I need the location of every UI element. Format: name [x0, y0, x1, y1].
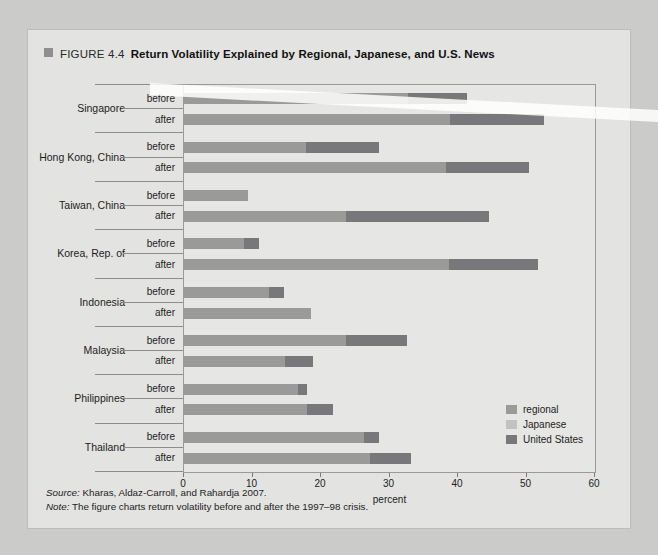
figure-number: FIGURE 4.4 [60, 48, 125, 60]
category-label: Thailand [85, 441, 125, 453]
bar-row [184, 211, 595, 222]
bar-row [184, 142, 595, 153]
figure-title: Return Volatility Explained by Regional,… [131, 48, 495, 60]
category-mid-rule [123, 447, 183, 448]
bar-segment-regional [184, 404, 307, 415]
bar-segment-united-states [408, 93, 467, 104]
group-separator-rule [95, 132, 183, 133]
group-separator-rule [95, 374, 183, 375]
group-separator-rule [95, 471, 183, 472]
period-label-after: after [155, 452, 175, 463]
legend-label: regional [523, 404, 559, 415]
period-label-before: before [147, 141, 175, 152]
period-label-before: before [147, 286, 175, 297]
bar-row [184, 190, 595, 201]
legend-swatch-icon [506, 420, 517, 429]
bar-segment-united-states [269, 287, 284, 298]
category-label: Malaysia [84, 344, 125, 356]
figure-notes: Source: Kharas, Aldaz-Carroll, and Rahar… [46, 486, 612, 513]
period-label-before: before [147, 383, 175, 394]
category-mid-rule [123, 205, 183, 206]
bar-segment-regional [184, 453, 370, 464]
bar-segment-regional [184, 432, 364, 443]
bar-segment-united-states [346, 335, 407, 346]
bar-row [184, 93, 595, 104]
period-label-before: before [147, 334, 175, 345]
bar-segment-regional [184, 142, 306, 153]
bar-segment-regional [184, 162, 446, 173]
bar-segment-united-states [306, 142, 379, 153]
group-separator-rule [95, 229, 183, 230]
bar-segment-united-states [285, 356, 313, 367]
group-separator-rule [95, 278, 183, 279]
category-label: Philippines [74, 392, 125, 404]
period-label-before: before [147, 92, 175, 103]
legend-label: Japanese [523, 419, 566, 430]
period-label-after: after [155, 307, 175, 318]
period-label-before: before [147, 189, 175, 200]
x-axis-tick [183, 473, 184, 477]
category-mid-rule [123, 398, 183, 399]
x-axis-tick [389, 473, 390, 477]
note-text: The figure charts return volatility befo… [69, 501, 368, 512]
bar-segment-united-states [450, 114, 544, 125]
category-axis: beforeafterSingaporebeforeafterHong Kong… [28, 84, 183, 473]
category-mid-rule [123, 350, 183, 351]
x-axis-tick [594, 473, 595, 477]
legend-item: United States [506, 433, 626, 446]
bar-segment-regional [184, 308, 311, 319]
legend-item: Japanese [506, 418, 626, 431]
source-label: Source: [46, 487, 80, 498]
category-label: Taiwan, China [59, 199, 125, 211]
period-label-after: after [155, 161, 175, 172]
bar-row [184, 453, 595, 464]
x-axis-tick [320, 473, 321, 477]
bar-segment-regional [184, 114, 450, 125]
category-label: Singapore [77, 102, 125, 114]
category-mid-rule [123, 108, 183, 109]
chart-legend: regionalJapaneseUnited States [506, 403, 626, 448]
category-label: Korea, Rep. of [57, 247, 125, 259]
x-axis-tick [526, 473, 527, 477]
group-separator-rule [95, 326, 183, 327]
bar-segment-united-states [449, 259, 538, 270]
bar-segment-regional [184, 259, 449, 270]
figure-page: FIGURE 4.4 Return Volatility Explained b… [0, 0, 658, 555]
bar-segment-united-states [370, 453, 410, 464]
source-note: Source: Kharas, Aldaz-Carroll, and Rahar… [46, 486, 612, 500]
category-label: Indonesia [79, 296, 125, 308]
group-separator-rule [95, 181, 183, 182]
period-label-after: after [155, 210, 175, 221]
bar-segment-regional [184, 238, 244, 249]
bar-row [184, 356, 595, 367]
category-label: Hong Kong, China [39, 151, 125, 163]
bar-segment-united-states [298, 384, 307, 395]
category-mid-rule [123, 253, 183, 254]
period-label-after: after [155, 258, 175, 269]
bar-segment-regional [184, 190, 248, 201]
period-label-after: after [155, 403, 175, 414]
period-label-before: before [147, 431, 175, 442]
category-mid-rule [123, 302, 183, 303]
bar-segment-united-states [307, 404, 332, 415]
note-label: Note: [46, 501, 69, 512]
bar-segment-united-states [446, 162, 529, 173]
bar-row [184, 384, 595, 395]
note-note: Note: The figure charts return volatilit… [46, 500, 612, 514]
x-axis-tick [252, 473, 253, 477]
bar-row [184, 238, 595, 249]
legend-swatch-icon [506, 405, 517, 414]
bar-segment-united-states [244, 238, 259, 249]
figure-title-row: FIGURE 4.4 Return Volatility Explained b… [44, 48, 495, 60]
bar-row [184, 259, 595, 270]
figure-panel: FIGURE 4.4 Return Volatility Explained b… [28, 30, 630, 528]
bar-segment-regional [184, 211, 346, 222]
bar-row [184, 114, 595, 125]
bar-row [184, 308, 595, 319]
group-separator-rule [95, 84, 183, 85]
square-marker-icon [44, 48, 53, 57]
group-separator-rule [95, 423, 183, 424]
period-label-before: before [147, 237, 175, 248]
legend-label: United States [523, 434, 583, 445]
source-text: Kharas, Aldaz-Carroll, and Rahardja 2007… [80, 487, 267, 498]
